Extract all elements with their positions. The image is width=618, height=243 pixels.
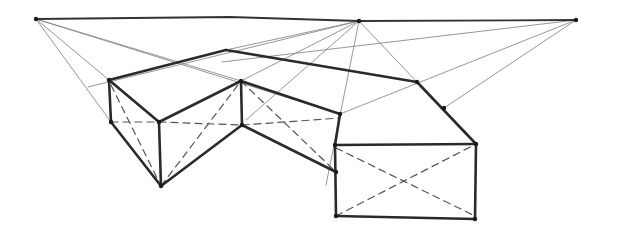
visible-edge (475, 144, 476, 219)
corner-point (415, 80, 419, 84)
corner-point (109, 120, 113, 124)
visible-edge (335, 144, 476, 145)
corner-point (334, 214, 338, 218)
hidden-edge (241, 81, 336, 172)
visible-edge (109, 50, 226, 80)
hidden-edge (336, 148, 475, 216)
guide-line (226, 21, 359, 50)
guide-line (36, 19, 111, 122)
hidden-edge-lines (111, 81, 476, 216)
visible-edge (241, 81, 242, 125)
corner-point (157, 120, 161, 124)
corner-point (474, 142, 478, 146)
corner-point (34, 17, 38, 21)
corner-point (240, 123, 244, 127)
visible-edge (242, 125, 336, 172)
corner-point (574, 18, 578, 22)
horizon-line (36, 17, 576, 21)
corner-point (357, 19, 361, 23)
hidden-edge (336, 144, 476, 216)
horizon-stroke (36, 17, 576, 21)
visible-edge (335, 145, 336, 216)
corner-point (338, 112, 342, 116)
corner-point (333, 143, 337, 147)
perspective-drawing (0, 0, 618, 243)
corner-point (442, 106, 446, 110)
guide-line (241, 21, 359, 81)
guide-line (88, 21, 359, 87)
visible-edge (159, 81, 241, 122)
visible-edge (226, 50, 417, 82)
corner-point (107, 78, 111, 82)
hidden-edge (111, 85, 161, 186)
corner-point (159, 184, 163, 188)
corner-point (239, 79, 243, 83)
corner-point (473, 217, 477, 221)
visible-edge (161, 125, 242, 186)
hidden-edge (159, 122, 242, 125)
corner-point (334, 170, 338, 174)
hidden-edge (242, 118, 340, 125)
visible-edge (111, 122, 161, 186)
block-outline (109, 50, 476, 219)
visible-edge (159, 122, 161, 186)
guide-line (36, 19, 109, 80)
visible-edge (241, 81, 340, 114)
visible-edge (109, 80, 159, 122)
visible-edge (417, 82, 476, 144)
visible-edge (336, 216, 475, 219)
visible-edge (109, 80, 111, 122)
